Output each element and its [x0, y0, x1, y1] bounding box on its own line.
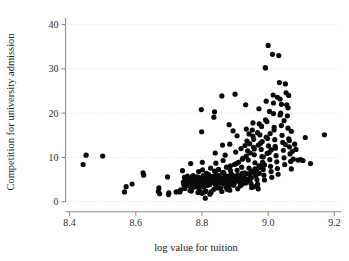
data-point	[262, 177, 267, 182]
data-point	[235, 186, 240, 191]
data-point	[228, 168, 233, 173]
data-point	[300, 158, 305, 163]
y-tick-label-20: 20	[49, 108, 59, 119]
data-point	[276, 172, 281, 177]
data-point	[130, 181, 135, 186]
data-point	[279, 133, 284, 138]
data-point	[232, 92, 237, 97]
data-point	[227, 122, 232, 127]
data-point	[215, 185, 220, 190]
data-point	[223, 184, 228, 189]
data-point	[212, 109, 217, 114]
x-tick-label-8.4: 8.4	[63, 217, 76, 228]
x-tick-label-9.0: 9.0	[262, 217, 275, 228]
data-point	[188, 161, 193, 166]
data-point	[250, 127, 255, 132]
data-point	[180, 168, 185, 173]
data-point	[272, 137, 277, 142]
data-point	[219, 189, 224, 194]
data-point	[259, 147, 264, 152]
data-point	[252, 146, 257, 151]
data-point	[268, 131, 273, 136]
data-point	[182, 186, 187, 191]
data-point	[260, 161, 265, 166]
data-point	[259, 124, 264, 129]
data-point	[267, 109, 272, 114]
data-point	[124, 184, 129, 189]
data-point	[231, 183, 236, 188]
data-point	[251, 137, 256, 142]
data-point	[289, 129, 294, 134]
data-point	[281, 155, 286, 160]
data-point	[187, 188, 192, 193]
data-point	[219, 93, 224, 98]
data-point	[279, 102, 284, 107]
data-point	[247, 179, 252, 184]
x-axis-title: log value for tuition	[154, 242, 238, 253]
data-point	[256, 142, 261, 147]
data-point	[156, 185, 161, 190]
data-point	[274, 153, 279, 158]
data-point	[213, 150, 218, 155]
data-point	[283, 81, 288, 86]
data-point	[277, 80, 282, 85]
data-point	[265, 151, 270, 156]
data-point	[191, 184, 196, 189]
data-point	[157, 191, 162, 196]
data-point	[244, 127, 249, 132]
x-tick-label-8.6: 8.6	[130, 217, 143, 228]
x-tick-label-9.2: 9.2	[328, 217, 341, 228]
data-point	[221, 158, 226, 163]
data-point	[255, 181, 260, 186]
data-point	[264, 134, 269, 139]
data-point	[211, 115, 216, 120]
data-point	[268, 164, 273, 169]
x-tick-label-8.8: 8.8	[196, 217, 209, 228]
data-point	[239, 165, 244, 170]
data-point	[165, 174, 170, 179]
data-point	[282, 162, 287, 167]
data-point	[257, 171, 262, 176]
data-point	[227, 188, 232, 193]
data-point	[263, 65, 268, 70]
data-point	[275, 166, 280, 171]
data-point	[264, 99, 269, 104]
data-point	[281, 148, 286, 153]
data-point	[269, 175, 274, 180]
data-point	[292, 142, 297, 147]
data-point	[277, 112, 282, 117]
data-point	[234, 168, 239, 173]
data-point	[227, 142, 232, 147]
data-point	[271, 100, 276, 105]
data-point	[263, 117, 268, 122]
data-point	[199, 107, 204, 112]
data-point	[266, 43, 271, 48]
data-point	[281, 118, 286, 123]
data-point	[255, 130, 260, 135]
plot-canvas: 8.48.68.89.09.2 010203040 log value for …	[0, 0, 349, 261]
data-point	[276, 53, 281, 58]
data-point	[274, 159, 279, 164]
data-point	[260, 139, 265, 144]
data-point	[246, 131, 251, 136]
data-point	[220, 170, 225, 175]
data-point	[122, 189, 127, 194]
data-point	[223, 153, 228, 158]
data-point	[230, 128, 235, 133]
data-point	[213, 161, 218, 166]
data-point	[322, 132, 327, 137]
data-point	[166, 190, 171, 195]
data-point	[204, 171, 209, 176]
scatter-plot-figure: 8.48.68.89.09.2 010203040 log value for …	[0, 0, 349, 261]
data-point	[193, 175, 198, 180]
data-point	[233, 150, 238, 155]
data-point	[283, 142, 288, 147]
data-point	[269, 147, 274, 152]
y-tick-label-30: 30	[49, 63, 59, 74]
data-point	[250, 120, 255, 125]
data-point	[279, 123, 284, 128]
data-point	[200, 160, 205, 165]
data-point	[199, 129, 204, 134]
data-point	[303, 135, 308, 140]
data-point	[261, 173, 266, 178]
